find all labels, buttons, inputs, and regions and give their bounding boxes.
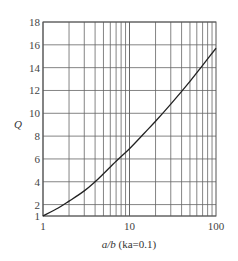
x-axis-label-var: a/b — [102, 238, 117, 250]
x-tick-label: 10 — [124, 220, 136, 232]
x-tick-labels: 110100 — [40, 220, 225, 232]
x-axis-label: a/b (ka=0.1) — [102, 238, 157, 251]
y-tick-label: 2 — [35, 199, 41, 211]
y-tick-label: 14 — [29, 62, 41, 74]
grid-lines — [43, 22, 216, 216]
x-tick-label: 100 — [208, 220, 225, 232]
y-tick-label: 16 — [29, 39, 41, 51]
chart: 124681012141618 110100 Q a/b (ka=0.1) — [0, 0, 238, 261]
y-tick-label: 12 — [29, 84, 40, 96]
y-tick-label: 18 — [29, 16, 41, 28]
x-axis-label-paren: (ka=0.1) — [119, 238, 157, 251]
y-tick-label: 8 — [35, 130, 41, 142]
y-tick-label: 4 — [35, 176, 41, 188]
y-tick-label: 1 — [35, 210, 41, 222]
y-tick-labels: 124681012141618 — [29, 16, 41, 222]
y-tick-label: 6 — [35, 153, 41, 165]
x-tick-label: 1 — [40, 220, 46, 232]
y-tick-label: 10 — [29, 107, 41, 119]
y-axis-label: Q — [14, 118, 22, 130]
